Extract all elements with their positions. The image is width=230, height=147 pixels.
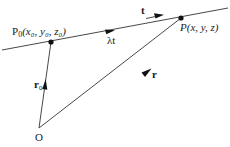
r-arrowhead bbox=[142, 69, 152, 78]
point-p0 bbox=[48, 39, 53, 44]
p0-label: P0(x₀, y₀, z₀) bbox=[12, 25, 66, 39]
r0-label: r0 bbox=[34, 78, 43, 92]
p-label: P(x, y, z) bbox=[179, 21, 219, 34]
lambda-t-label: λt bbox=[107, 34, 115, 46]
r0-arrowhead bbox=[42, 79, 47, 90]
origin-label: O bbox=[35, 131, 43, 143]
line-vector-diagram: P0(x₀, y₀, z₀) P(x, y, z) O λt t r r0 bbox=[0, 0, 230, 147]
point-p bbox=[178, 15, 183, 20]
r-label: r bbox=[152, 68, 157, 80]
t-label: t bbox=[141, 4, 145, 16]
t-vector-arrowhead bbox=[154, 13, 164, 18]
